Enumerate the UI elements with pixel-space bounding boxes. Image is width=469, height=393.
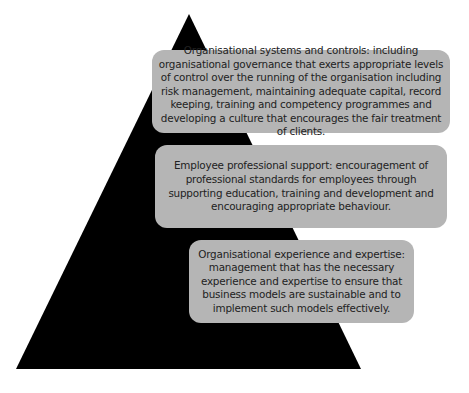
tier-box-employee-support: Employee professional support: encourage… [155,145,447,228]
tier-box-organisational-systems: Organisational systems and controls: inc… [152,50,450,133]
tier-text-organisational-experience: Organisational experience and expertise:… [195,248,408,316]
tier-text-employee-support: Employee professional support: encourage… [161,159,441,213]
tier-box-organisational-experience: Organisational experience and expertise:… [189,240,414,323]
tier-text-organisational-systems: Organisational systems and controls: inc… [158,44,444,139]
